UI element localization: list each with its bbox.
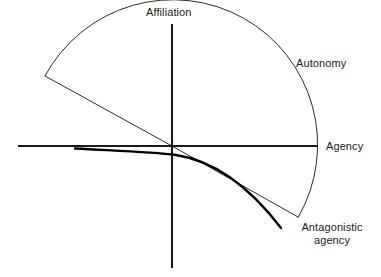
figure-container: Affiliation Autonomy Agency Antagonistic… — [0, 0, 381, 277]
autonomy-arc — [45, 0, 318, 217]
affiliation-axis-label: Affiliation — [146, 6, 192, 19]
upper-left-radius-line — [45, 76, 172, 146]
antagonistic-agency-label: Antagonistic agency — [286, 221, 378, 247]
autonomy-arc-label: Autonomy — [296, 57, 346, 70]
antagonistic-agency-curve — [75, 149, 281, 229]
agency-axis-label: Agency — [326, 140, 363, 153]
